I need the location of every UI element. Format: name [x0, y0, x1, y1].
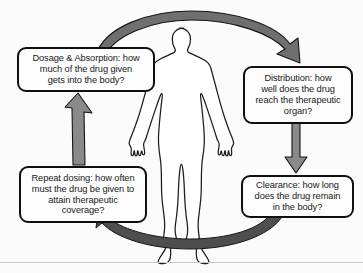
callout-distribution[interactable]: Distribution: how well does the drug rea… — [243, 66, 353, 124]
bottom-divider-rule — [0, 262, 363, 263]
callout-repeat-dosing[interactable]: Repeat dosing: how often must the drug b… — [19, 166, 147, 223]
arrow-distribution-to-clearance — [285, 123, 307, 173]
callout-dosage-absorption[interactable]: Dosage & Absorption: how much of the dru… — [17, 47, 155, 92]
arrow-repeat-to-dosage — [65, 93, 92, 165]
diagram-graphics-layer — [0, 0, 363, 273]
pharmacokinetics-diagram: Dosage & Absorption: how much of the dru… — [0, 0, 363, 273]
callout-clearance[interactable]: Clearance: how long does the drug remain… — [241, 175, 354, 218]
